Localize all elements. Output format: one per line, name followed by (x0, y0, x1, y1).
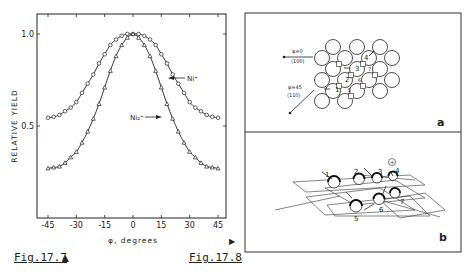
svg-text:2: 2 (345, 76, 349, 84)
ni2-plus-annotation: Ni₂⁺ (130, 114, 162, 122)
svg-text:-15: -15 (98, 221, 111, 230)
svg-text:30: 30 (185, 221, 195, 230)
svg-text:4: 4 (395, 167, 400, 175)
svg-text:4: 4 (364, 54, 369, 62)
fig-17-8-caption: Fig.17.8 (189, 251, 242, 264)
series-ni2-plus (46, 32, 220, 170)
x-axis-ticks: -45-30-150153045 (41, 14, 223, 230)
x-axis-label: φ, degrees (108, 236, 158, 245)
svg-text:1: 1 (335, 86, 339, 94)
svg-text:0: 0 (130, 221, 135, 230)
figure-canvas: -45-30-150153045 0.51.0 φ, degrees RELAT… (0, 0, 471, 272)
panel-b-label: b (439, 231, 447, 244)
ni2-plus-label: Ni₂⁺ (130, 114, 144, 122)
crystal-diagram: φ=0 ⟨100⟩ φ=45 ⟨110⟩ 1 2 3 4 5 6 7 a (245, 13, 461, 252)
svg-text:5: 5 (348, 87, 351, 93)
right-marker-icon: ▶ (229, 237, 235, 246)
svg-text:3: 3 (355, 65, 359, 73)
svg-text:3: 3 (378, 168, 382, 176)
ni-plus-label: Ni⁺ (187, 75, 198, 83)
svg-text:φ=45: φ=45 (288, 84, 302, 91)
svg-text:2: 2 (354, 168, 358, 176)
svg-text:15: 15 (156, 221, 166, 230)
svg-text:0.5: 0.5 (21, 122, 34, 131)
svg-text:φ=0: φ=0 (292, 48, 303, 55)
y-axis-label: RELATIVE YIELD (10, 89, 19, 162)
svg-text:45: 45 (213, 221, 223, 230)
panel-a-label: a (437, 116, 444, 129)
svg-text:7: 7 (400, 198, 404, 206)
surface-atoms (328, 172, 400, 213)
direction-arrow-100: φ=0 ⟨100⟩ (283, 48, 313, 64)
panel-b: + 1 2 3 4 5 6 7 b (275, 159, 447, 245)
direction-arrow-110: φ=45 ⟨110⟩ (287, 84, 314, 114)
svg-text:⟨110⟩: ⟨110⟩ (287, 92, 300, 98)
svg-text:⟨100⟩: ⟨100⟩ (291, 58, 304, 64)
surface-lattice (315, 40, 400, 109)
up-marker-icon: ▲ (62, 253, 69, 263)
svg-text:5: 5 (354, 215, 358, 223)
svg-text:6: 6 (358, 77, 361, 83)
svg-text:6: 6 (379, 206, 384, 214)
fig-17-7-caption: Fig.17.7 (14, 251, 67, 264)
svg-text:-30: -30 (70, 221, 83, 230)
svg-text:1.0: 1.0 (21, 30, 34, 39)
svg-text:1: 1 (325, 171, 329, 179)
svg-text:-45: -45 (41, 221, 54, 230)
panel-a: φ=0 ⟨100⟩ φ=45 ⟨110⟩ 1 2 3 4 5 6 7 a (283, 40, 445, 130)
series-group (46, 32, 220, 170)
svg-text:+: + (390, 159, 394, 165)
yield-chart: -45-30-150153045 0.51.0 φ, degrees RELAT… (10, 14, 226, 245)
svg-text:7: 7 (368, 66, 371, 72)
